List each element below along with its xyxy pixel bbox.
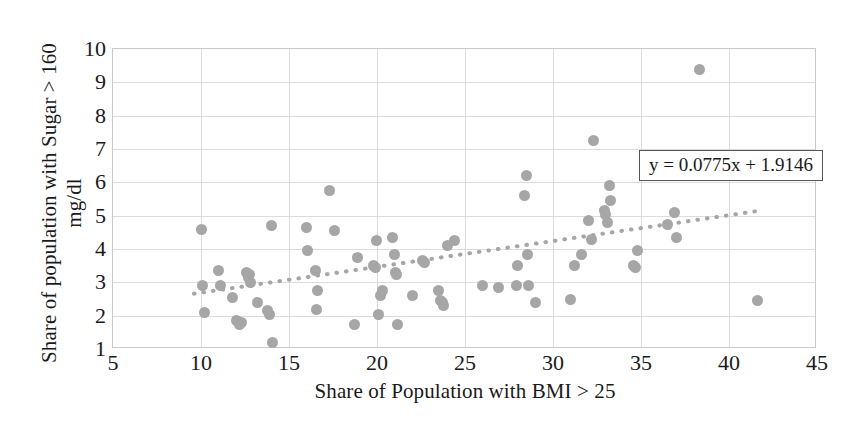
- data-point: [662, 219, 673, 230]
- data-point: [264, 309, 275, 320]
- data-point: [302, 245, 313, 256]
- gridline-horizontal: [113, 249, 815, 250]
- y-tick-label: 7: [66, 138, 106, 160]
- data-point: [266, 220, 277, 231]
- data-point: [213, 265, 224, 276]
- gridline-vertical: [289, 49, 290, 347]
- scatter-chart-figure: Share of population with Sugar > 160 mg/…: [0, 0, 851, 428]
- data-point: [602, 217, 613, 228]
- data-point: [197, 280, 208, 291]
- data-point: [196, 224, 207, 235]
- data-point: [523, 280, 534, 291]
- gridline-vertical: [553, 49, 554, 347]
- x-tick-label: 35: [630, 352, 652, 374]
- data-point: [349, 319, 360, 330]
- gridline-horizontal: [113, 82, 815, 83]
- data-point: [370, 262, 381, 273]
- data-point: [312, 285, 323, 296]
- gridline-vertical: [729, 49, 730, 347]
- x-tick-label: 5: [108, 352, 119, 374]
- data-point: [752, 295, 763, 306]
- data-point: [234, 319, 245, 330]
- data-point: [352, 252, 363, 263]
- data-point: [449, 235, 460, 246]
- data-point: [324, 185, 335, 196]
- data-point: [604, 180, 615, 191]
- y-tick-label: 9: [66, 71, 106, 93]
- gridline-horizontal: [113, 116, 815, 117]
- data-point: [392, 319, 403, 330]
- x-tick-label: 45: [806, 352, 828, 374]
- x-tick-label: 15: [278, 352, 300, 374]
- y-tick-label: 8: [66, 105, 106, 127]
- data-point: [301, 222, 312, 233]
- data-point: [565, 294, 576, 305]
- data-point: [373, 309, 384, 320]
- x-tick-label: 20: [366, 352, 388, 374]
- data-point: [311, 304, 322, 315]
- trendline-equation-label: y = 0.0775x + 1.9146: [639, 150, 823, 181]
- data-point: [267, 337, 278, 348]
- data-point: [493, 282, 504, 293]
- y-tick-label: 5: [66, 205, 106, 227]
- y-tick-label: 1: [66, 338, 106, 360]
- gridline-vertical: [377, 49, 378, 347]
- plot-area: 12345678910 51015202530354045: [112, 48, 816, 348]
- trendline: [113, 49, 815, 347]
- data-point: [245, 277, 256, 288]
- data-point: [522, 249, 533, 260]
- y-tick-label: 6: [66, 171, 106, 193]
- data-point: [389, 249, 400, 260]
- data-point: [371, 235, 382, 246]
- data-point: [511, 280, 522, 291]
- gridline-vertical: [641, 49, 642, 347]
- data-point: [419, 257, 430, 268]
- data-point: [519, 190, 530, 201]
- data-point: [630, 262, 641, 273]
- data-point: [583, 215, 594, 226]
- data-point: [512, 260, 523, 271]
- data-point: [569, 260, 580, 271]
- data-point: [407, 290, 418, 301]
- data-point: [199, 307, 210, 318]
- x-tick-label: 10: [190, 352, 212, 374]
- data-point: [227, 292, 238, 303]
- y-tick-label: 2: [66, 305, 106, 327]
- data-point: [586, 234, 597, 245]
- data-point: [671, 232, 682, 243]
- data-point: [310, 265, 321, 276]
- data-point: [669, 207, 680, 218]
- gridline-horizontal: [113, 182, 815, 183]
- data-point: [605, 195, 616, 206]
- data-point: [329, 225, 340, 236]
- data-point: [377, 285, 388, 296]
- data-point: [391, 269, 402, 280]
- gridline-horizontal: [113, 216, 815, 217]
- data-point: [387, 232, 398, 243]
- gridline-vertical: [201, 49, 202, 347]
- gridline-horizontal: [113, 316, 815, 317]
- gridline-vertical: [465, 49, 466, 347]
- data-point: [521, 170, 532, 181]
- data-point: [252, 297, 263, 308]
- data-point: [694, 64, 705, 75]
- data-point: [438, 300, 449, 311]
- x-tick-label: 40: [718, 352, 740, 374]
- data-point: [576, 249, 587, 260]
- y-tick-label: 4: [66, 238, 106, 260]
- data-point: [530, 297, 541, 308]
- y-tick-label: 10: [66, 38, 106, 60]
- data-point: [477, 280, 488, 291]
- y-tick-label: 3: [66, 271, 106, 293]
- data-point: [215, 280, 226, 291]
- x-axis-title: Share of Population with BMI > 25: [112, 379, 818, 404]
- data-point: [588, 135, 599, 146]
- x-tick-label: 30: [542, 352, 564, 374]
- x-tick-label: 25: [454, 352, 476, 374]
